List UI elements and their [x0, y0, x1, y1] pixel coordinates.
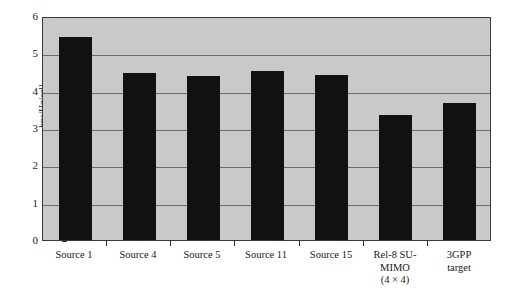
x-axis-tick-marks — [42, 241, 491, 247]
y-axis-tick-label: 1 — [24, 198, 38, 209]
x-axis-tick-label-line: Source 11 — [234, 249, 298, 262]
x-axis-tick-label: Source 5 — [170, 249, 234, 262]
x-axis-tick-label-line: target — [427, 262, 491, 275]
x-axis-tick-mark — [299, 241, 300, 246]
y-axis-tick-label: 3 — [24, 123, 38, 134]
y-axis-tick-label: 4 — [24, 86, 38, 97]
bar — [123, 73, 156, 240]
bar — [315, 75, 348, 240]
y-axis-tick-labels: 0123456 — [24, 17, 38, 241]
bar — [251, 71, 284, 240]
x-axis-tick-mark — [427, 241, 428, 246]
bar — [379, 115, 412, 240]
x-axis-tick-label: Source 15 — [299, 249, 363, 262]
x-axis-tick-label-line: 3GPP — [427, 249, 491, 262]
bar — [59, 37, 92, 240]
x-axis-tick-label: Source 1 — [42, 249, 106, 262]
y-axis-tick-label: 5 — [24, 48, 38, 59]
bar — [187, 76, 220, 240]
x-axis-tick-label-line: Source 1 — [42, 249, 106, 262]
plot-area — [42, 17, 491, 241]
x-axis-tick-label: 3GPPtarget — [427, 249, 491, 274]
x-axis-tick-label: Rel-8 SU-MIMO(4 × 4) — [363, 249, 427, 287]
bar — [443, 103, 476, 240]
x-axis-tick-mark — [106, 241, 107, 246]
y-axis-tick-label: 6 — [24, 11, 38, 22]
x-axis-tick-label-line: Source 4 — [106, 249, 170, 262]
bars-group — [43, 18, 490, 240]
x-axis-tick-mark — [234, 241, 235, 246]
bar-chart-figure: bps/Hz/cell 0123456 Source 1Source 4Sour… — [0, 0, 511, 298]
x-axis-tick-label-line: Rel-8 SU- — [363, 249, 427, 262]
x-axis-tick-label-line: Source 5 — [170, 249, 234, 262]
x-axis-tick-label: Source 11 — [234, 249, 298, 262]
x-axis-tick-label-line: (4 × 4) — [363, 274, 427, 287]
x-axis-tick-label-line: Source 15 — [299, 249, 363, 262]
y-axis-tick-label: 0 — [24, 235, 38, 246]
x-axis-tick-mark — [170, 241, 171, 246]
x-axis-tick-label-line: MIMO — [363, 262, 427, 275]
x-axis-tick-labels: Source 1Source 4Source 5Source 11Source … — [42, 249, 491, 297]
y-axis-tick-label: 2 — [24, 160, 38, 171]
x-axis-tick-label: Source 4 — [106, 249, 170, 262]
x-axis-tick-mark — [363, 241, 364, 246]
